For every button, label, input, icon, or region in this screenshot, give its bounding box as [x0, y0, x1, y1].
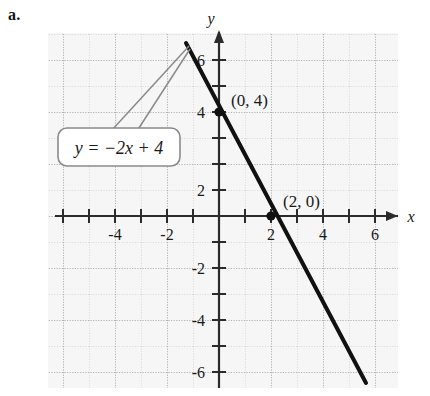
y-tick-label: -2: [192, 260, 205, 277]
x-tick-label: -2: [160, 226, 173, 243]
y-axis-label: y: [205, 10, 215, 28]
y-tick-label: -6: [192, 364, 205, 381]
coordinate-plane-figure: x y -4 -2 2 4 6 6 4 2 -2 -4 -6: [0, 0, 430, 396]
y-tick-label: 4: [197, 104, 205, 121]
figure-page: a.: [0, 0, 430, 396]
point-label-y-intercept: (0, 4): [231, 91, 268, 110]
x-tick-label: 6: [371, 226, 379, 243]
point-marker-y-intercept: [214, 107, 223, 116]
y-tick-label: 2: [197, 182, 205, 199]
point-label-x-intercept: (2, 0): [283, 192, 320, 211]
x-tick-label: 4: [319, 226, 327, 243]
x-tick-label: -4: [108, 226, 121, 243]
x-axis-label: x: [406, 208, 414, 225]
callout-equation: y = −2x + 4: [73, 138, 163, 158]
y-tick-label: -4: [192, 312, 205, 329]
point-marker-x-intercept: [266, 211, 275, 220]
x-tick-label: 2: [267, 226, 275, 243]
callout-box: y = −2x + 4: [58, 128, 180, 166]
